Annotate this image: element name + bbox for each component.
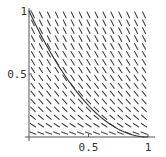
slope-segment [134,59,137,64]
slope-segment [110,83,114,88]
slope-segment [78,99,82,104]
slope-segment [142,91,146,96]
slope-segment [134,91,138,96]
slope-segment [118,91,122,96]
slope-segment [93,132,99,134]
slope-segment [30,123,35,126]
slope-segment [40,12,43,18]
y-tick-label: 1 [20,5,27,18]
slope-segment [117,132,123,134]
slope-segment [55,28,58,34]
slope-segment [63,12,66,18]
slope-segment [47,83,51,88]
slope-segment [38,115,43,119]
slope-segment [142,59,145,64]
slope-segment [118,115,123,119]
slope-segment [39,75,43,80]
slope-segment [126,115,131,119]
slope-segment [142,75,146,80]
slope-segment [71,99,75,104]
slope-segment [39,91,43,96]
slope-segment [87,59,90,64]
slope-segment [47,107,52,112]
slope-segment [142,115,147,119]
slope-segment [55,67,58,72]
slope-segment [87,28,90,34]
slope-segment [111,36,114,42]
slope-segment [55,91,59,96]
slope-segment [95,36,98,42]
slope-segment [111,52,114,58]
slope-segment [71,75,75,80]
slope-segment [71,59,74,64]
slope-segment [110,115,115,119]
slope-segment [62,115,67,119]
slope-segment [111,44,114,50]
slope-segment [118,67,121,72]
slope-segment [86,132,92,134]
slope-segment [39,67,42,72]
slope-segment [32,28,35,34]
slope-segment [70,123,75,126]
slope-segment [103,44,106,50]
slope-segment [95,52,98,58]
slope-segment [55,20,58,26]
slope-segment [79,20,82,26]
slope-segment [31,83,35,88]
slope-segment [31,36,34,42]
slope-segment [142,99,146,104]
slope-segment [87,12,90,18]
slope-segment [78,123,83,126]
slope-field-chart: 0.510.51 [0,0,166,157]
slope-segment [47,36,50,42]
slope-segment [126,99,130,104]
slope-segment [110,91,114,96]
slope-segment [135,12,138,18]
y-tick-label: 0.5 [7,68,27,81]
slope-segment [47,99,51,104]
slope-segment [118,107,123,112]
x-tick-label: 1 [145,141,152,154]
slope-segment [87,75,91,80]
slope-segment [102,91,106,96]
slope-segment [38,123,43,126]
slope-segment [95,75,99,80]
slope-segment [135,44,138,50]
slope-segment [126,67,129,72]
slope-segment [118,123,123,126]
slope-segment [46,115,51,119]
slope-segment [63,44,66,50]
slope-segment [95,67,98,72]
slope-segment [47,20,50,26]
slope-segment [134,115,139,119]
slope-segment [118,99,122,104]
slope-segment [47,75,51,80]
slope-segment [133,132,139,134]
slope-segment [71,91,75,96]
slope-segment [119,59,122,64]
slope-segment [127,36,130,42]
slope-segment [94,91,98,96]
slope-segment [95,83,99,88]
slope-segment [70,132,76,134]
slope-segment [110,75,114,80]
slope-segment [127,52,130,58]
slope-segment [79,59,82,64]
slope-segment [142,67,145,72]
slope-field [30,12,147,134]
slope-segment [31,59,34,64]
slope-segment [62,123,67,126]
slope-segment [63,59,66,64]
slope-segment [47,91,51,96]
slope-segment [109,132,115,134]
slope-segment [79,12,82,18]
slope-segment [79,36,82,42]
slope-segment [63,52,66,58]
slope-segment [71,67,74,72]
slope-segment [31,52,34,58]
slope-segment [86,123,91,126]
slope-segment [39,20,42,26]
slope-segment [94,99,98,104]
slope-segment [134,99,138,104]
slope-segment [55,99,59,104]
